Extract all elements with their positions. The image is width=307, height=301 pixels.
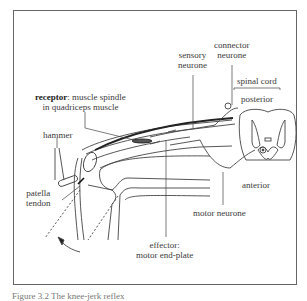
patella-label-line1: patella [26,188,50,198]
spinal-cord-label: spinal cord [237,76,277,86]
femur-outline [100,156,210,170]
connector-neurone-label: connector neurone [214,40,249,60]
motor-neurone-path [170,140,255,168]
receptor-label: receptor: muscle spindle in quadriceps m… [35,92,126,112]
effector-label: effector: motor end-plate [136,240,193,260]
muscle-spindle-icon [132,139,152,143]
spinal-cord-outline [239,109,296,160]
tibia-outline [88,185,116,240]
sensory-label-line2: neurone [178,60,207,70]
anterior-label: anterior [242,180,270,190]
ganglion-icon [225,103,231,109]
sensory-neurone-label: sensory neurone [178,50,207,70]
patella-tendon-label: patella tendon [26,188,51,208]
connector-label-line1: connector [214,40,249,50]
hammer-label: hammer [43,130,73,140]
figure-caption: Figure 3.2 The knee-jerk reflex [12,291,125,301]
sensory-label-line1: sensory [179,50,207,60]
receptor-label-rest: : muscle spindle [67,92,126,102]
connector-label-line2: neurone [217,50,246,60]
receptor-label-bold: receptor [35,92,67,102]
hammer-icon [55,148,64,180]
receptor-label-line2: in quadriceps muscle [42,102,118,112]
posterior-label: posterior [241,94,273,104]
effector-label-line1: effector: [149,240,179,250]
effector-label-line2: motor end-plate [136,250,193,260]
motor-neurone-label: motor neurone [193,208,246,218]
patella-icon [81,151,99,174]
patella-label-line2: tendon [26,198,51,208]
